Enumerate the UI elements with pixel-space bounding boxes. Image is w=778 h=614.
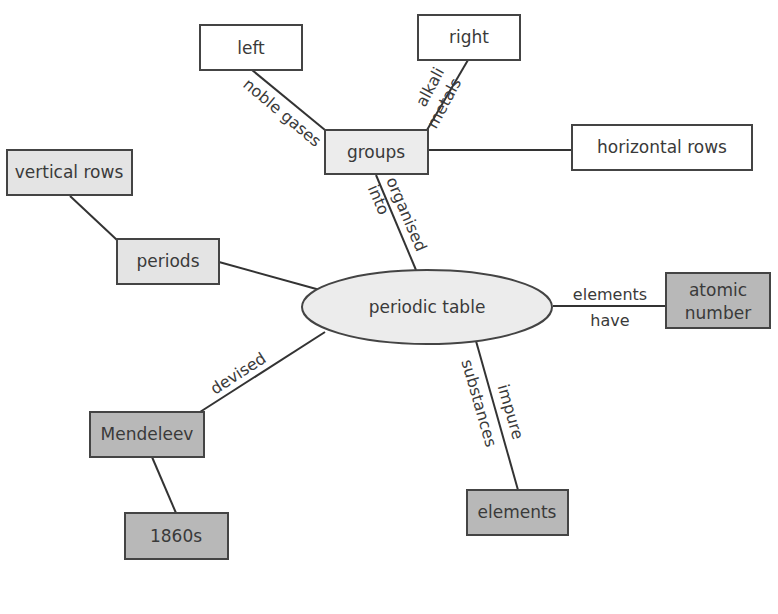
node-mendeleev[interactable]: Mendeleev — [90, 412, 204, 457]
node-vertical-rows[interactable]: vertical rows — [7, 150, 132, 195]
node-right[interactable]: right — [418, 15, 520, 60]
node-groups-label: groups — [347, 142, 405, 162]
edge-label-alkali-metals: alkali metals — [405, 64, 466, 132]
node-elements[interactable]: elements — [467, 490, 568, 535]
edge-mendeleev-1860s — [152, 457, 176, 513]
node-atomic-number-line1: atomic — [689, 280, 747, 300]
node-left[interactable]: left — [200, 25, 302, 70]
node-1860s-label: 1860s — [150, 526, 202, 546]
edge-periodic-table-mendeleev — [200, 332, 325, 412]
node-periods[interactable]: periods — [117, 239, 219, 284]
edge-label-have: have — [590, 311, 629, 330]
node-horizontal-rows-label: horizontal rows — [597, 137, 727, 157]
edge-vertical-rows-periods — [70, 196, 117, 240]
node-groups[interactable]: groups — [325, 130, 428, 174]
node-horizontal-rows[interactable]: horizontal rows — [572, 125, 752, 170]
node-periods-label: periods — [136, 251, 199, 271]
edge-label-organised-into: organised into — [364, 174, 431, 262]
node-atomic-number-line2: number — [685, 303, 751, 323]
edge-label-noble-gases: noble gases — [239, 75, 325, 151]
edge-label-impure: impure — [494, 382, 528, 441]
edge-label-organised: organised — [382, 174, 430, 254]
node-left-label: left — [237, 38, 265, 58]
node-right-label: right — [449, 27, 489, 47]
edge-periods-periodic-table — [219, 262, 320, 290]
node-elements-label: elements — [478, 502, 557, 522]
node-vertical-rows-label: vertical rows — [15, 162, 124, 182]
node-periodic-table-label: periodic table — [369, 297, 486, 317]
node-periodic-table[interactable]: periodic table — [302, 270, 552, 344]
edge-label-elements: elements — [573, 285, 647, 304]
concept-map: left right groups horizontal rows vertic… — [0, 0, 778, 614]
node-atomic-number[interactable]: atomic number — [666, 273, 770, 328]
node-mendeleev-label: Mendeleev — [101, 424, 194, 444]
node-1860s[interactable]: 1860s — [125, 513, 228, 559]
